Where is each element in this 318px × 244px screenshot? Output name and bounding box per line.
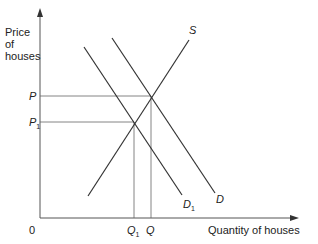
d1-sub: 1 bbox=[191, 205, 195, 212]
d1-main: D bbox=[183, 198, 191, 210]
y-axis-arrow-icon bbox=[37, 8, 43, 17]
quantity-label-q: Q bbox=[146, 224, 155, 236]
y-label-line-3: houses bbox=[5, 50, 40, 62]
supply-label: S bbox=[189, 24, 196, 36]
demand-label: D bbox=[216, 193, 224, 205]
x-axis-arrow-icon bbox=[290, 215, 299, 221]
y-label-line-1: Price bbox=[5, 26, 40, 38]
q1-sub: 1 bbox=[136, 231, 140, 238]
y-axis-label: Price of houses bbox=[5, 26, 40, 62]
q1-main: Q bbox=[127, 224, 136, 236]
price-label-p1: P1 bbox=[29, 116, 40, 133]
p1-sub: 1 bbox=[36, 123, 40, 130]
origin-label: 0 bbox=[29, 224, 35, 236]
demand-curve bbox=[112, 38, 215, 193]
y-label-line-2: of bbox=[5, 38, 40, 50]
quantity-label-q1: Q1 bbox=[127, 224, 139, 241]
demand-d1-label: D1 bbox=[183, 198, 195, 215]
x-axis-label: Quantity of houses bbox=[208, 224, 300, 236]
diagram-canvas bbox=[0, 0, 318, 244]
price-label-p: P bbox=[29, 90, 36, 102]
supply-curve bbox=[88, 40, 189, 196]
